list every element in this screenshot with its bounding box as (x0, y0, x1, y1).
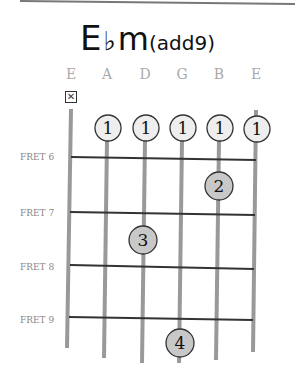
finger-4: 4 (175, 333, 186, 353)
finger-1-b: 1 (215, 118, 226, 138)
finger-3: 3 (138, 230, 149, 250)
string-low-e (67, 109, 71, 348)
finger-2: 2 (214, 176, 225, 196)
finger-1-d: 1 (141, 118, 152, 138)
fretboard: 1 1 1 1 1 2 3 4 (0, 0, 295, 385)
finger-1-a: 1 (103, 118, 114, 138)
finger-1-high-e: 1 (252, 119, 263, 139)
finger-1-g: 1 (178, 118, 189, 138)
